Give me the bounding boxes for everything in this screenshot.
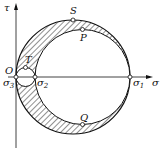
point-sigma1 <box>128 75 132 79</box>
label-sigma3: σ3 <box>3 77 15 90</box>
point-S <box>71 18 75 22</box>
label-Q: Q <box>80 112 88 123</box>
point-P <box>81 28 85 32</box>
point-sigma3 <box>14 75 18 79</box>
label-P: P <box>79 32 87 43</box>
point-Q <box>81 123 85 127</box>
origin-label: O <box>5 65 13 76</box>
point-T <box>24 66 28 70</box>
label-sigma1: σ1 <box>133 77 144 90</box>
mohr-circle-diagram: τ σ O S P Q T σ1 σ2 σ3 <box>0 0 163 151</box>
tau-arrow-icon <box>14 3 18 10</box>
sigma-label: σ <box>152 77 160 88</box>
label-S: S <box>70 5 77 16</box>
tau-label: τ <box>4 2 10 13</box>
